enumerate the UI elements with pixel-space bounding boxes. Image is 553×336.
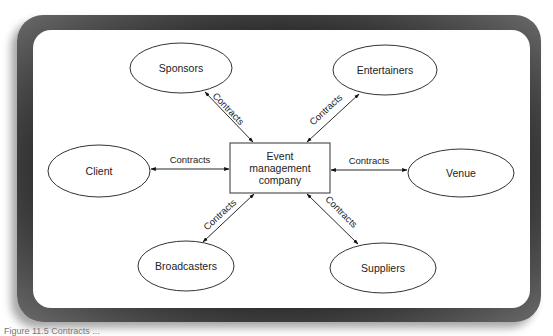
figure-caption: Figure 11.5 Contracts ... xyxy=(4,326,100,336)
broadcasters-label: Broadcasters xyxy=(155,260,217,272)
suppliers-label: Suppliers xyxy=(361,262,405,274)
edge-venue: Contracts xyxy=(331,155,407,170)
center-label-line-3: company xyxy=(259,174,302,186)
node-broadcasters: Broadcasters xyxy=(138,241,234,291)
node-sponsors: Sponsors xyxy=(130,43,232,93)
node-event-management-company: Event management company xyxy=(230,143,330,193)
entertainers-label: Entertainers xyxy=(357,64,414,76)
client-label: Client xyxy=(86,165,113,177)
edge-label-suppliers: Contracts xyxy=(323,193,360,230)
edge-sponsors: Contracts xyxy=(205,90,253,142)
sponsors-label: Sponsors xyxy=(159,62,203,74)
edge-client: Contracts xyxy=(151,154,229,169)
node-entertainers: Entertainers xyxy=(333,45,437,95)
edge-label-entertainers: Contracts xyxy=(307,91,344,127)
center-label-line-1: Event xyxy=(267,150,294,162)
edge-label-sponsors: Contracts xyxy=(210,90,246,127)
edge-broadcasters: Contracts xyxy=(201,194,254,242)
node-client: Client xyxy=(48,145,150,197)
edge-label-venue: Contracts xyxy=(349,155,390,166)
venue-label: Venue xyxy=(446,167,476,179)
node-venue: Venue xyxy=(408,149,514,197)
node-suppliers: Suppliers xyxy=(330,243,436,293)
edge-suppliers: Contracts xyxy=(307,193,360,244)
edge-label-client: Contracts xyxy=(170,154,211,165)
edge-entertainers: Contracts xyxy=(307,91,359,142)
center-label-line-2: management xyxy=(249,162,310,174)
